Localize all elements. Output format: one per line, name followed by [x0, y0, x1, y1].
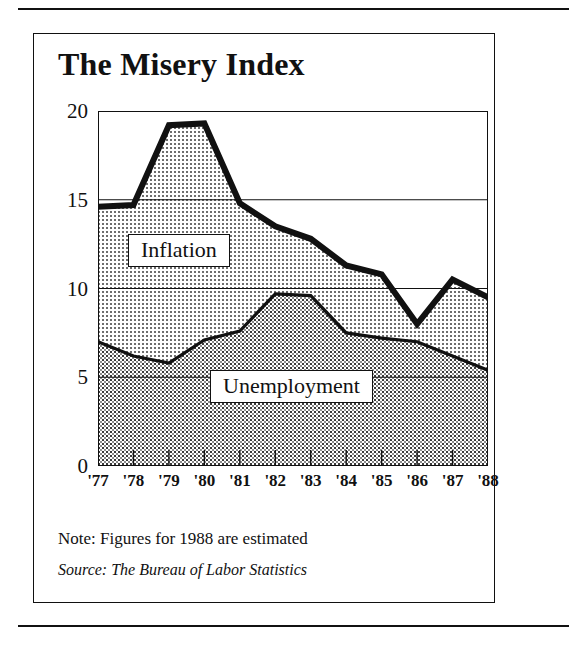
x-axis-tick-87: '87: [442, 471, 464, 491]
plot-area: [98, 111, 488, 466]
chart-svg: [98, 111, 488, 466]
y-axis-tick-15: 15: [67, 187, 88, 212]
bottom-rule: [18, 625, 569, 627]
y-axis-tick-20: 20: [67, 99, 88, 124]
x-axis-labels: '77'78'79'80'81'82'83'84'85'86'87'88: [98, 471, 488, 501]
x-axis-tick-83: '83: [300, 471, 322, 491]
y-axis-tick-10: 10: [67, 276, 88, 301]
chart-card: The Misery Index 20151050: [33, 33, 495, 603]
x-axis-tick-78: '78: [123, 471, 145, 491]
footer-note: Note: Figures for 1988 are estimated: [58, 529, 308, 549]
x-axis-tick-79: '79: [158, 471, 180, 491]
x-axis-tick-81: '81: [229, 471, 251, 491]
x-axis-tick-86: '86: [406, 471, 428, 491]
top-rule: [18, 8, 569, 10]
x-axis-tick-85: '85: [371, 471, 393, 491]
x-axis-tick-80: '80: [193, 471, 215, 491]
series-label-inflation: Inflation: [128, 234, 230, 267]
footer-source: Source: The Bureau of Labor Statistics: [58, 561, 307, 579]
x-axis-tick-77: '77: [87, 471, 109, 491]
y-axis-labels: 20151050: [34, 111, 94, 466]
x-axis-tick-82: '82: [264, 471, 286, 491]
x-axis-tick-88: '88: [477, 471, 499, 491]
x-axis-tick-84: '84: [335, 471, 357, 491]
y-axis-tick-5: 5: [78, 365, 89, 390]
series-label-unemployment: Unemployment: [210, 370, 373, 403]
page-title: The Misery Index: [58, 46, 305, 83]
